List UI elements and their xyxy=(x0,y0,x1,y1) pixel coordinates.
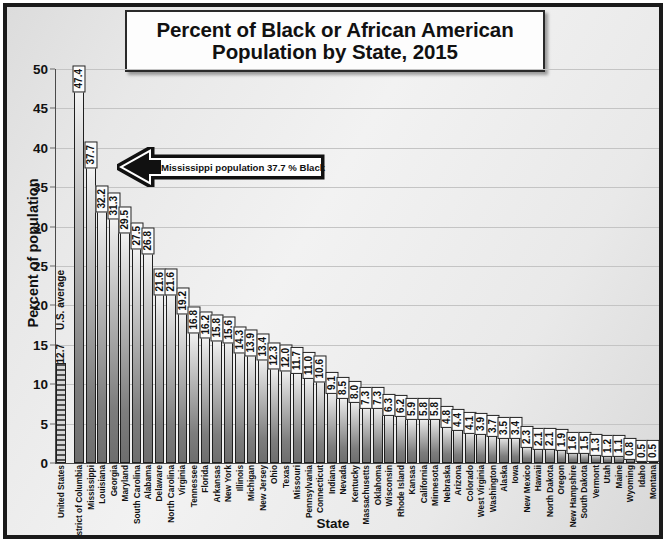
category-label-georgia: Georgia xyxy=(110,465,118,498)
bar-oregon[interactable]: 1.9 xyxy=(557,448,567,463)
category-label-california: California xyxy=(420,465,428,505)
bar-ohio[interactable]: 12.3 xyxy=(270,366,280,463)
bar-south-dakota[interactable]: 1.5 xyxy=(580,451,590,463)
y-tick-label-10: 10 xyxy=(33,377,55,392)
bar-north-carolina[interactable]: 21.6 xyxy=(166,293,176,463)
bar-slot: 12.3 xyxy=(269,69,280,463)
bar-value-label: 26.8 xyxy=(142,227,155,254)
chart-title: Percent of Black or African American Pop… xyxy=(125,10,545,72)
bar-slot: 3.7 xyxy=(487,69,498,463)
bar-value-label: 47.4 xyxy=(73,65,86,92)
bar-tennessee[interactable]: 16.8 xyxy=(189,331,199,463)
bar-south-carolina[interactable]: 27.5 xyxy=(132,246,142,463)
bar-mississippi[interactable]: 37.7 xyxy=(86,166,96,463)
category-label-north-dakota: North Dakota xyxy=(546,465,554,519)
bar-minnesota[interactable]: 5.8 xyxy=(430,417,440,463)
category-label-ohio: Ohio xyxy=(270,465,278,486)
bar-utah[interactable]: 1.2 xyxy=(603,454,613,463)
bar-slot: 13.4 xyxy=(257,69,268,463)
bar-pennsylvania[interactable]: 11.0 xyxy=(304,376,314,463)
bar-slot: 1.2 xyxy=(602,69,613,463)
bar-oklahoma[interactable]: 7.3 xyxy=(373,405,383,463)
bar-wyoming[interactable]: 0.8 xyxy=(626,457,636,463)
bar-montana[interactable]: 0.5 xyxy=(649,459,659,463)
bar-delaware[interactable]: 21.6 xyxy=(155,293,165,463)
bar-hawaii[interactable]: 2.1 xyxy=(534,446,544,463)
bar-new-jersey[interactable]: 13.4 xyxy=(258,357,268,463)
bar-slot: 27.5 xyxy=(131,69,142,463)
category-label-maine: Maine xyxy=(615,465,623,491)
y-tick-label-50: 50 xyxy=(33,62,55,77)
bar-slot: 13.9 xyxy=(246,69,257,463)
bar-west-virginia[interactable]: 3.9 xyxy=(476,432,486,463)
y-tick-label-40: 40 xyxy=(33,140,55,155)
bar-kansas[interactable]: 5.9 xyxy=(407,417,417,463)
plot-area: 05101520253035404550 12.7U.S. average47.… xyxy=(55,69,659,463)
category-label-idaho: Idaho xyxy=(638,465,646,489)
bar-new-mexico[interactable]: 2.3 xyxy=(522,445,532,463)
bar-texas[interactable]: 12.0 xyxy=(281,368,291,463)
bar-slot: 11.0 xyxy=(303,69,314,463)
bar-washington[interactable]: 3.7 xyxy=(488,434,498,463)
bar-wisconsin[interactable]: 6.3 xyxy=(384,413,394,463)
bar-slot: 0.5 xyxy=(636,69,647,463)
bar-missouri[interactable]: 11.7 xyxy=(293,371,303,463)
y-tick-label-0: 0 xyxy=(40,456,55,471)
bar-alabama[interactable]: 26.8 xyxy=(143,252,153,463)
bar-maine[interactable]: 1.1 xyxy=(614,454,624,463)
category-label-minnesota: Minnesota xyxy=(431,465,439,508)
bar-virginia[interactable]: 19.2 xyxy=(178,312,188,463)
bar-nevada[interactable]: 8.5 xyxy=(339,396,349,463)
y-tick-label-30: 30 xyxy=(33,219,55,234)
bar-slot: 4.1 xyxy=(464,69,475,463)
bar-district-of-columbia[interactable]: 47.4 xyxy=(74,90,84,464)
bar-north-dakota[interactable]: 2.1 xyxy=(545,446,555,463)
category-label-alaska: Alaska xyxy=(500,465,508,494)
bar-maryland[interactable]: 29.5 xyxy=(120,231,130,463)
bar-slot: 47.4 xyxy=(73,69,84,463)
bar-massachusetts[interactable]: 7.3 xyxy=(362,405,372,463)
bar-kentucky[interactable]: 8.0 xyxy=(350,400,360,463)
category-label-colorado: Colorado xyxy=(466,465,474,503)
bar-louisiana[interactable]: 32.2 xyxy=(97,209,107,463)
y-tick-label-5: 5 xyxy=(40,416,55,431)
bar-illinois[interactable]: 14.3 xyxy=(235,350,245,463)
bar-slot: 3.5 xyxy=(498,69,509,463)
bar-slot: 10.6 xyxy=(315,69,326,463)
bar-slot: 8.5 xyxy=(338,69,349,463)
bar-rhode-island[interactable]: 6.2 xyxy=(396,414,406,463)
bar-arizona[interactable]: 4.4 xyxy=(453,428,463,463)
bar-new-hampshire[interactable]: 1.6 xyxy=(568,450,578,463)
bar-california[interactable]: 5.8 xyxy=(419,417,429,463)
bar-new-york[interactable]: 15.6 xyxy=(224,340,234,463)
y-tick-label-35: 35 xyxy=(33,180,55,195)
bar-nebraska[interactable]: 4.8 xyxy=(442,425,452,463)
bar-slot: 16.8 xyxy=(188,69,199,463)
bar-florida[interactable]: 16.2 xyxy=(201,335,211,463)
category-label-pennsylvania: Pennsylvania xyxy=(305,465,313,520)
mississippi-callout: Mississippi population 37.7 % Black xyxy=(117,147,325,187)
bar-colorado[interactable]: 4.1 xyxy=(465,431,475,463)
bar-slot: 9.1 xyxy=(326,69,337,463)
bar-michigan[interactable]: 13.9 xyxy=(247,353,257,463)
category-label-oklahoma: Oklahoma xyxy=(374,465,382,507)
bar-alaska[interactable]: 3.5 xyxy=(499,435,509,463)
category-label-virginia: Virginia xyxy=(178,465,186,497)
category-label-florida: Florida xyxy=(201,465,209,495)
bar-connecticut[interactable]: 10.6 xyxy=(316,379,326,463)
bar-indiana[interactable]: 9.1 xyxy=(327,391,337,463)
bar-idaho[interactable]: 0.5 xyxy=(637,459,647,463)
bar-iowa[interactable]: 3.4 xyxy=(511,436,521,463)
bar-slot: 15.8 xyxy=(211,69,222,463)
chart-title-line-2: Population by State, 2015 xyxy=(212,41,458,63)
bar-arkansas[interactable]: 15.8 xyxy=(212,339,222,464)
bar-slot: 14.3 xyxy=(234,69,245,463)
bar-georgia[interactable]: 31.3 xyxy=(109,216,119,463)
bar-series: 12.7U.S. average47.437.732.231.329.527.5… xyxy=(55,69,659,463)
category-label-alabama: Alabama xyxy=(144,465,152,502)
bar-united-states[interactable]: 12.7U.S. average xyxy=(56,363,66,463)
bar-vermont[interactable]: 1.3 xyxy=(591,453,601,463)
y-tick-label-20: 20 xyxy=(33,298,55,313)
bar-value-label: 0.5 xyxy=(647,440,660,462)
category-label-delaware: Delaware xyxy=(155,465,163,503)
